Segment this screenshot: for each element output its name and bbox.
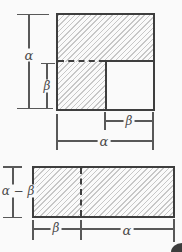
geometry-diagram: α β β α α − β β α bbox=[0, 0, 182, 252]
beta-height-top-tick bbox=[41, 63, 55, 65]
alpha-width-label: α bbox=[98, 135, 111, 148]
outer-square bbox=[56, 13, 155, 111]
alpha-height-top-tick bbox=[17, 14, 49, 16]
beta-height-label: β bbox=[42, 80, 53, 93]
bottom-left-extension bbox=[32, 220, 34, 240]
alpha-width-left-extension bbox=[56, 114, 58, 150]
alpha-minus-beta-label: α − β bbox=[0, 185, 36, 198]
right-extension-line bbox=[152, 112, 154, 150]
alpha-height-label: α bbox=[23, 49, 36, 62]
beta-width-label: β bbox=[124, 115, 135, 128]
bottom-right-extension bbox=[173, 219, 175, 242]
beta-bottom-label: β bbox=[51, 222, 62, 235]
bottom-middle-extension bbox=[80, 220, 82, 240]
dashed-divider bbox=[80, 168, 82, 216]
alpha-bottom-label: α bbox=[121, 223, 134, 236]
bottom-rectangle bbox=[32, 166, 175, 218]
page-corner-artifact bbox=[171, 243, 182, 252]
